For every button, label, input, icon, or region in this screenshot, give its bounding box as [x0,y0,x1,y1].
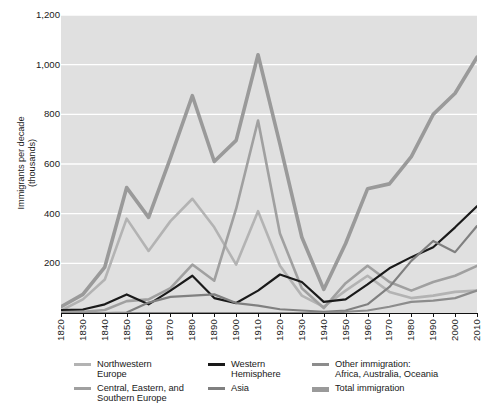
legend-label: Central, Eastern, and Southern Europe [97,383,184,404]
x-tick-label: 1880 [187,319,197,341]
x-tick-label: 1870 [165,319,175,341]
legend-entry-other-immigration[interactable]: Other immigration: Africa, Australia, Oc… [312,359,438,380]
x-tick-mark [127,313,128,317]
legend-label: Other immigration: Africa, Australia, Oc… [335,359,438,380]
legend-entry-asia[interactable]: Asia [208,383,249,393]
legend-swatch-icon [208,363,225,366]
x-tick-label: 2010 [472,319,482,341]
x-tick-mark [455,313,456,317]
x-tick-label: 1930 [297,319,307,341]
y-tick-label: 600 [20,159,60,169]
x-tick-label: 1850 [122,319,132,341]
chart-legend: Northwestern EuropeCentral, Eastern, and… [74,359,474,407]
x-tick-mark [214,313,215,317]
legend-swatch-icon [312,387,329,392]
y-tick-label: 200 [20,258,60,268]
x-tick-mark [105,313,106,317]
legend-label: Total immigration [335,383,404,393]
x-tick-label: 1920 [275,319,285,341]
x-tick-mark [411,313,412,317]
plot-svg [61,15,477,313]
legend-entry-total-immigration[interactable]: Total immigration [312,383,404,393]
y-tick-label: 800 [20,109,60,119]
x-tick-mark [346,313,347,317]
x-tick-mark [368,313,369,317]
x-tick-mark [324,313,325,317]
legend-swatch-icon [312,363,329,366]
y-tick-label: 1,200 [20,10,60,20]
x-tick-label: 1820 [56,319,66,341]
legend-label: Northwestern Europe [97,359,152,380]
x-tick-mark [477,313,478,317]
x-tick-label: 1860 [144,319,154,341]
x-tick-mark [258,313,259,317]
legend-swatch-icon [74,363,91,366]
x-tick-mark [236,313,237,317]
legend-entry-northwestern-europe[interactable]: Northwestern Europe [74,359,152,380]
y-tick-label: 400 [20,209,60,219]
legend-label: Asia [231,383,249,393]
x-tick-label: 1940 [319,319,329,341]
x-tick-label: 1970 [384,319,394,341]
legend-entry-central-eastern-southern-europe[interactable]: Central, Eastern, and Southern Europe [74,383,184,404]
immigration-line-chart: Immigrants per decade (thousands) 200400… [0,0,487,411]
x-tick-mark [149,313,150,317]
legend-entry-western-hemisphere[interactable]: Western Hemisphere [208,359,281,380]
x-tick-label: 1840 [100,319,110,341]
x-tick-label: 1910 [253,319,263,341]
plot-area [61,15,477,313]
x-tick-label: 1900 [231,319,241,341]
legend-swatch-icon [208,387,225,390]
legend-swatch-icon [74,387,91,390]
x-tick-label: 1830 [78,319,88,341]
x-tick-label: 1990 [428,319,438,341]
legend-label: Western Hemisphere [231,359,281,380]
x-tick-mark [433,313,434,317]
x-tick-label: 2000 [450,319,460,341]
x-tick-label: 1980 [406,319,416,341]
x-tick-mark [389,313,390,317]
x-tick-label: 1890 [209,319,219,341]
x-axis-ticks: 1820183018401850186018701880189019001910… [0,313,487,359]
y-tick-label: 1,000 [20,60,60,70]
y-axis-tick-labels: 2004006008001,0001,200 [20,0,60,330]
x-tick-mark [61,313,62,317]
x-tick-mark [192,313,193,317]
x-tick-mark [170,313,171,317]
x-tick-mark [302,313,303,317]
x-tick-label: 1960 [363,319,373,341]
x-tick-mark [280,313,281,317]
x-tick-label: 1950 [341,319,351,341]
x-tick-mark [83,313,84,317]
